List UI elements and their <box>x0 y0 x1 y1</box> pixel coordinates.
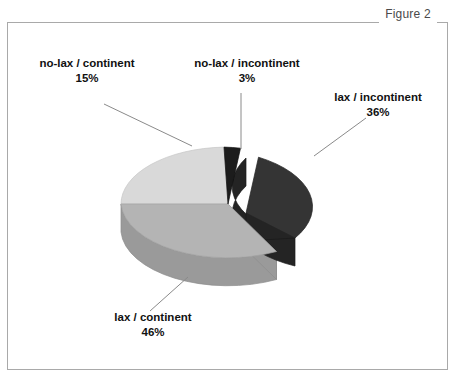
leader-line-lax-continent <box>150 277 188 311</box>
pie-label-lax-incontinent: lax / incontinent 36% <box>312 90 444 120</box>
pie-label-lax-incontinent-percent: 36% <box>312 105 444 120</box>
pie-label-nolax-incontinent-percent: 3% <box>172 71 322 86</box>
pie-label-nolax-continent-percent: 15% <box>12 71 162 86</box>
pie-label-nolax-continent: no-lax / continent 15% <box>12 56 162 86</box>
figure-container: Figure 2 <box>0 0 457 382</box>
pie-label-nolax-continent-name: no-lax / continent <box>39 57 134 69</box>
leader-line-lax-incontinent <box>314 118 366 156</box>
pie-label-lax-continent-name: lax / continent <box>114 311 191 323</box>
pie-label-nolax-incontinent: no-lax / incontinent 3% <box>172 56 322 86</box>
pie-label-nolax-incontinent-name: no-lax / incontinent <box>194 57 299 69</box>
pie-label-lax-incontinent-name: lax / incontinent <box>334 91 422 103</box>
pie-label-lax-continent: lax / continent 46% <box>80 310 226 340</box>
pie-label-lax-continent-percent: 46% <box>80 325 226 340</box>
pie-slice-top-nolax-continent <box>121 147 228 204</box>
leader-line-nolax-continent <box>104 104 192 146</box>
